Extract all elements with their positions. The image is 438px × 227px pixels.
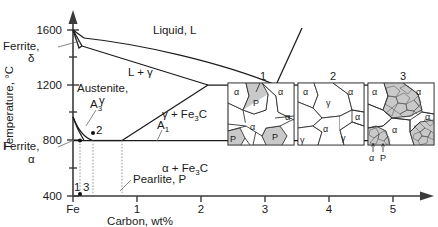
label-liquid: Liquid, L bbox=[153, 24, 197, 36]
label-ferrite-delta-symbol: δ bbox=[28, 52, 34, 64]
label-l-plus-gamma: L + γ bbox=[128, 66, 153, 78]
y-ticklabel-1600: 1600 bbox=[36, 24, 62, 36]
label-ferrite-alpha-symbol: α bbox=[28, 153, 35, 165]
marker-dot-point-2 bbox=[91, 131, 95, 135]
y-ticklabel-1200: 1200 bbox=[36, 79, 62, 91]
panel-3-label-alpha-1: α bbox=[372, 87, 377, 97]
panel-3-label-alpha-2: α bbox=[416, 87, 421, 97]
panel-3-bottom-label-P: P bbox=[380, 153, 386, 163]
x-axis-arrowhead bbox=[420, 192, 434, 201]
y-ticklabel-800: 800 bbox=[43, 134, 62, 146]
label-A1: A1 bbox=[157, 119, 170, 134]
marker-dot-point-1 bbox=[78, 139, 82, 143]
panel-3-bottom-label-alpha: α bbox=[369, 153, 374, 163]
panel-1-label-alpha-4: α bbox=[250, 122, 255, 132]
panel-2-label-gamma-1: γ bbox=[326, 98, 331, 108]
svg-text:A1: A1 bbox=[157, 119, 170, 134]
panel-2-label-alpha-2: α bbox=[348, 87, 353, 97]
x-ticklabel-5: 5 bbox=[390, 203, 396, 215]
leader-A1 bbox=[157, 130, 162, 141]
panel-2-label-alpha-3: α bbox=[355, 112, 360, 122]
x-ticklabel-4: 4 bbox=[326, 203, 333, 215]
y-axis-title: Temperature, °C bbox=[3, 66, 15, 150]
cementite-liquidus-line bbox=[276, 28, 302, 85]
panel-3-transforming: 3 bbox=[368, 70, 434, 163]
label-ferrite-delta-text: Ferrite, bbox=[3, 40, 39, 52]
panel-1-label-P-1: P bbox=[253, 98, 259, 108]
panel-2-number: 2 bbox=[330, 70, 336, 82]
x-ticklabel-2: 2 bbox=[198, 203, 204, 215]
x-axis-title: Carbon, wt% bbox=[107, 215, 173, 227]
leader-A3 bbox=[86, 110, 96, 126]
x-ticklabel-Fe: Fe bbox=[66, 203, 79, 215]
panel-2-label-gamma-2: γ bbox=[300, 135, 305, 145]
x-ticklabel-1: 1 bbox=[134, 203, 140, 215]
panel-2-ferrite-austenite: 2 α α γ α α γ γ bbox=[298, 70, 364, 145]
panel-1-label-alpha-1: α bbox=[234, 87, 239, 97]
panel-1-number: 1 bbox=[260, 70, 266, 82]
panel-2-label-alpha-1: α bbox=[303, 87, 308, 97]
x-ticklabel-3: 3 bbox=[262, 203, 268, 215]
label-pearlite: Pearlite, P bbox=[133, 173, 186, 185]
panel-2-label-gamma-3: γ bbox=[341, 133, 346, 143]
panel-3-label-alpha-4: α bbox=[392, 125, 397, 135]
label-gamma-fe3c: γ + Fe3C bbox=[162, 108, 207, 123]
y-ticklabel-400: 400 bbox=[43, 190, 62, 202]
phase-diagram-figure: 1600 1200 800 400 Fe 1 2 3 4 5 Carbon, w… bbox=[0, 0, 438, 227]
y-axis-arrowhead bbox=[69, 10, 78, 24]
liquidus-right-line bbox=[84, 38, 276, 85]
panel-1-proeutectoid-pearlite: 1 α α P α α P P bbox=[228, 70, 294, 145]
panel-2-label-alpha-4: α bbox=[323, 124, 328, 134]
label-austenite: Austenite, bbox=[77, 82, 128, 94]
svg-text:γ + Fe3C: γ + Fe3C bbox=[162, 108, 207, 123]
panel-1-label-P-3: P bbox=[272, 132, 278, 142]
label-point-2: 2 bbox=[96, 124, 102, 136]
figure-canvas: 1600 1200 800 400 Fe 1 2 3 4 5 Carbon, w… bbox=[0, 0, 438, 227]
leader-ferrite-delta bbox=[58, 41, 80, 47]
panel-3-number: 3 bbox=[400, 70, 406, 82]
panel-1-label-alpha-2: α bbox=[278, 87, 283, 97]
label-ferrite-alpha-text: Ferrite, bbox=[3, 140, 39, 152]
A3-boundary-line bbox=[73, 117, 93, 141]
label-point-1: 1 bbox=[74, 181, 80, 193]
panel-3-label-alpha-3: α bbox=[425, 112, 430, 122]
panel-1-label-alpha-3: α bbox=[285, 112, 290, 122]
label-point-3: 3 bbox=[83, 181, 89, 193]
panel-1-label-P-2: P bbox=[230, 134, 236, 144]
